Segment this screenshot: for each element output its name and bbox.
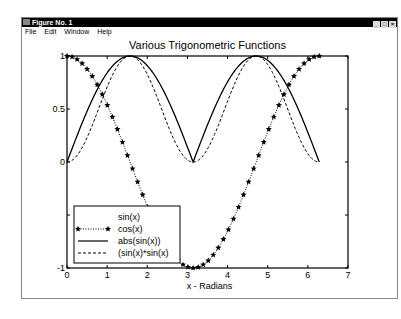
- cos-star-marker: [74, 56, 80, 62]
- cos-star-marker: [225, 226, 231, 232]
- cos-star-marker: [140, 192, 146, 198]
- x-tick-label: 2: [145, 270, 150, 280]
- cos-star-marker: [251, 165, 257, 171]
- cos-star-marker: [185, 264, 191, 270]
- y-tick-label: 1: [60, 51, 65, 61]
- cos-star-marker: [306, 56, 312, 62]
- y-tick-label: -1: [57, 263, 65, 273]
- cos-star-marker: [130, 165, 136, 171]
- cos-star-marker: [215, 245, 221, 251]
- cos-star-marker: [180, 261, 186, 267]
- cos-star-marker: [190, 265, 196, 271]
- cos-star-marker: [119, 139, 125, 145]
- cos-star-marker: [69, 54, 75, 60]
- cos-star-marker: [109, 114, 115, 120]
- legend-label: sin(x): [118, 212, 140, 222]
- x-tick-label: 1: [105, 270, 110, 280]
- y-tick-label: 0: [60, 157, 65, 167]
- x-tick-label: 0: [64, 270, 69, 280]
- cos-star-marker: [99, 91, 105, 97]
- cos-star-marker: [104, 102, 110, 108]
- cos-star-marker: [266, 126, 272, 132]
- cos-star-marker: [316, 53, 322, 59]
- legend-label: cos(x): [118, 224, 143, 234]
- cos-star-marker: [220, 236, 226, 242]
- cos-star-marker: [261, 139, 267, 145]
- cos-star-marker: [271, 114, 277, 120]
- plot-area: Various Trigonometric Functions01234567-…: [0, 0, 401, 319]
- cos-star-marker: [235, 204, 241, 210]
- x-tick-label: 3: [185, 270, 190, 280]
- x-tick-label: 4: [225, 270, 230, 280]
- series-sin-squared: [67, 56, 319, 162]
- cos-star-marker: [256, 152, 262, 158]
- cos-star-marker: [135, 179, 141, 185]
- cos-star-marker: [311, 54, 317, 60]
- cos-star-marker: [84, 66, 90, 72]
- x-tick-label: 7: [345, 270, 350, 280]
- series-abs-sin: [67, 56, 319, 162]
- legend-label: (sin(x)*sin(x): [118, 248, 169, 258]
- cos-star-marker: [281, 91, 287, 97]
- cos-star-marker: [291, 73, 297, 79]
- x-axis-label: x - Radians: [187, 281, 233, 291]
- x-tick-label: 5: [265, 270, 270, 280]
- cos-star-marker: [114, 126, 120, 132]
- chart-title: Various Trigonometric Functions: [129, 39, 286, 51]
- x-tick-label: 6: [305, 270, 310, 280]
- cos-star-marker: [124, 152, 130, 158]
- cos-star-marker: [195, 264, 201, 270]
- y-tick-label: 0.5: [52, 104, 65, 114]
- cos-star-marker: [241, 192, 247, 198]
- cos-star-marker: [246, 179, 252, 185]
- cos-star-marker: [276, 102, 282, 108]
- legend-label: abs(sin(x)): [118, 236, 161, 246]
- cos-star-marker: [230, 216, 236, 222]
